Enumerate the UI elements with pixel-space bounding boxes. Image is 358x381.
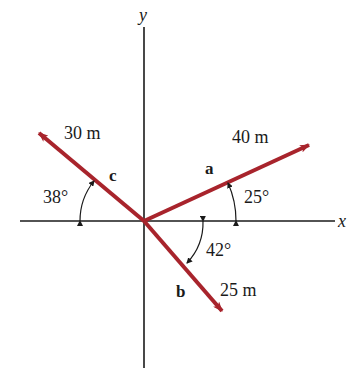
vector-c-angle: 38° xyxy=(43,187,68,207)
vector-a xyxy=(144,145,309,221)
vector-b-magnitude: 25 m xyxy=(220,280,257,300)
angle-arc-b xyxy=(187,221,203,263)
vector-diagram: y x 40 m a 25° 30 m c 38° 42° b 25 m xyxy=(0,0,358,381)
vector-b-angle: 42° xyxy=(206,240,231,260)
x-axis-label: x xyxy=(337,211,346,231)
vector-a-magnitude: 40 m xyxy=(232,127,269,147)
y-axis-label: y xyxy=(137,5,147,25)
vector-c-name: c xyxy=(109,166,117,185)
vector-c xyxy=(39,133,144,221)
vector-a-angle: 25° xyxy=(244,187,269,207)
vector-b-name: b xyxy=(176,282,185,301)
vector-a-name: a xyxy=(205,159,214,178)
angle-arc-c xyxy=(80,181,94,221)
vector-c-magnitude: 30 m xyxy=(64,123,101,143)
angle-arc-a xyxy=(228,183,236,221)
